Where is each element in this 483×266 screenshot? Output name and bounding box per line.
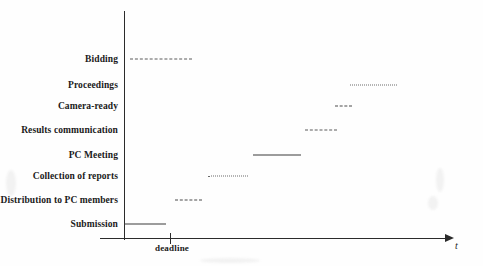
deadline-label: deadline xyxy=(146,243,198,253)
task-label-distribution-to-pc-members: Distribution to PC members xyxy=(1,195,118,205)
task-bar-camera-ready xyxy=(335,106,352,107)
task-bar-bidding xyxy=(130,59,192,60)
scan-artifact xyxy=(200,258,260,263)
task-label-pc-meeting: PC Meeting xyxy=(69,150,118,160)
scan-artifact xyxy=(428,196,438,210)
timeline-gantt-chart: t deadline Bidding Proceedings Camera-re… xyxy=(0,0,483,266)
task-label-results-communication: Results communication xyxy=(21,125,118,135)
task-bar-pc-meeting xyxy=(253,155,301,156)
task-label-collection-of-reports: Collection of reports xyxy=(33,171,118,181)
task-bar-submission xyxy=(124,224,166,225)
task-label-submission: Submission xyxy=(71,219,118,229)
task-label-proceedings: Proceedings xyxy=(68,80,118,90)
task-bar-proceedings xyxy=(350,85,397,86)
task-label-bidding: Bidding xyxy=(85,54,118,64)
scan-artifact xyxy=(6,170,16,196)
x-axis-label: t xyxy=(455,240,458,251)
task-bar-collection-of-reports xyxy=(208,176,248,177)
task-bar-results-communication xyxy=(305,130,337,131)
task-label-camera-ready: Camera-ready xyxy=(58,101,118,111)
x-axis xyxy=(100,238,447,239)
task-bar-distribution-to-pc-members xyxy=(175,200,202,201)
x-axis-arrow-icon xyxy=(445,234,454,242)
scan-artifact xyxy=(436,168,444,192)
y-axis xyxy=(124,11,125,240)
